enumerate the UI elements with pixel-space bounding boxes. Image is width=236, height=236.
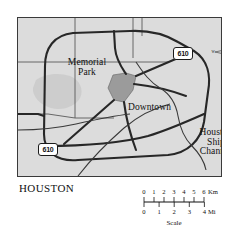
- radial-highway-east: [134, 84, 186, 96]
- arterial-west: [18, 114, 44, 116]
- svg-text:1: 1: [157, 208, 160, 215]
- scale-mi-tickmarks: [144, 202, 204, 207]
- map-canvas: Memorial Park Downtown Houston Ship Chan…: [17, 17, 222, 177]
- svg-text:1: 1: [152, 188, 155, 195]
- scale-mi-ticks: 0 1 2 3 4: [142, 208, 206, 215]
- label-memorial-park-line2: Park: [78, 67, 96, 77]
- svg-text:0: 0: [142, 208, 146, 215]
- svg-text:4: 4: [203, 208, 207, 215]
- svg-text:3: 3: [188, 208, 192, 215]
- compass-west-label: W: [212, 50, 216, 54]
- scale-caption: Scale: [166, 219, 181, 227]
- label-memorial-park: Memorial Park: [57, 58, 117, 77]
- svg-text:5: 5: [192, 188, 196, 195]
- svg-text:0: 0: [142, 188, 146, 195]
- memorial-park-area: [33, 74, 82, 109]
- svg-text:2: 2: [173, 208, 176, 215]
- svg-text:4: 4: [182, 188, 186, 195]
- compass-rose-icon: N S W E: [210, 36, 222, 68]
- svg-text:2: 2: [162, 188, 165, 195]
- label-downtown: Downtown: [128, 103, 171, 113]
- svg-text:3: 3: [172, 188, 176, 195]
- label-ship-channel-line2: Ship: [207, 137, 222, 147]
- map-figure: Memorial Park Downtown Houston Ship Chan…: [0, 0, 236, 236]
- svg-text:6: 6: [202, 188, 206, 195]
- scale-mi-unit: Mi: [208, 208, 216, 215]
- label-ship-channel-line3: Channel: [200, 146, 222, 156]
- label-houston-ship-channel: Houston Ship Channel: [190, 128, 222, 157]
- highway-shield-610-west: 610: [38, 143, 58, 156]
- scale-km-ticks: 0 1 2 3 4 5 6: [142, 188, 206, 195]
- radial-highway-southwest: [64, 100, 114, 144]
- waterway-branch-2: [18, 114, 130, 130]
- scale-bar: 0 1 2 3 4 5 6 Km: [140, 186, 232, 232]
- city-name-label: HOUSTON: [19, 182, 74, 194]
- label-memorial-park-line1: Memorial: [68, 57, 106, 67]
- radial-highway-northeast: [136, 58, 178, 76]
- scale-km-tickmarks: [144, 197, 204, 202]
- scale-km-unit: Km: [208, 188, 219, 195]
- highway-shield-610-north: 610: [173, 47, 193, 60]
- label-ship-channel-line1: Houston: [200, 127, 222, 137]
